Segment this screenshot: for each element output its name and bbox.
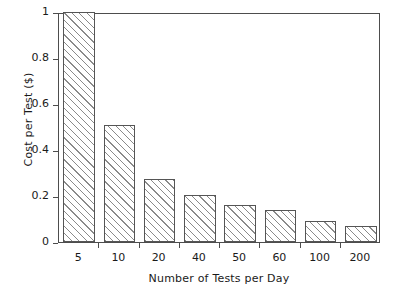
x-axis-ticks: 51020405060100200: [0, 0, 395, 298]
bar-chart-figure: Cost per Test ($) Number of Tests per Da…: [0, 0, 395, 298]
x-tick-label: 200: [336, 251, 384, 264]
x-tick-mark: [179, 243, 180, 248]
x-tick-mark: [259, 243, 260, 248]
x-tick-mark: [300, 243, 301, 248]
x-tick-mark: [219, 243, 220, 248]
x-tick-mark: [340, 243, 341, 248]
x-tick-mark: [98, 243, 99, 248]
x-tick-mark: [139, 243, 140, 248]
